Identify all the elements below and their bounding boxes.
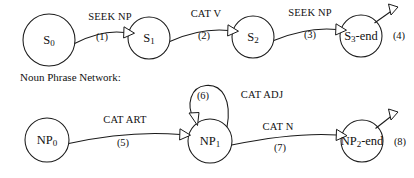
edge-4-number: (4) bbox=[393, 31, 405, 42]
edge-3-number: (3) bbox=[304, 30, 316, 41]
node-np1-label: NP1 bbox=[200, 135, 220, 150]
edge-7-number: (7) bbox=[274, 143, 286, 154]
node-np1-base: NP bbox=[200, 134, 216, 148]
edge-1-number: (1) bbox=[96, 32, 108, 43]
edge-4-arrowhead bbox=[389, 4, 399, 15]
node-np0-label: NP0 bbox=[37, 134, 57, 149]
node-s0-base: S bbox=[43, 33, 50, 47]
edge-5-label: CAT ART bbox=[103, 115, 146, 126]
node-np2-suffix: -end bbox=[361, 134, 383, 148]
node-np0-base: NP bbox=[37, 133, 53, 147]
edge-2-label: CAT V bbox=[191, 9, 222, 20]
node-s0-subscript: 0 bbox=[50, 38, 55, 48]
edge-8-path bbox=[376, 116, 392, 129]
node-np1-subscript: 1 bbox=[216, 139, 221, 149]
edge-2-number: (2) bbox=[198, 31, 210, 42]
node-s1-label: S1 bbox=[143, 32, 154, 47]
node-np2-base: NP bbox=[341, 134, 357, 148]
node-np0-subscript: 0 bbox=[53, 138, 58, 148]
node-s0-label: S0 bbox=[43, 34, 54, 49]
edge-6-arrowhead bbox=[189, 113, 199, 126]
node-s2-base: S bbox=[247, 30, 254, 44]
edge-1-label: SEEK NP bbox=[88, 12, 132, 23]
node-s1-base: S bbox=[143, 31, 150, 45]
node-s2-subscript: 2 bbox=[254, 35, 259, 45]
edge-4-path bbox=[375, 11, 392, 23]
edge-6-number: (6) bbox=[197, 91, 209, 102]
edge-5-number: (5) bbox=[117, 138, 129, 149]
edge-3-label: SEEK NP bbox=[288, 8, 332, 19]
node-np2-end-label: NP2-end bbox=[341, 135, 384, 150]
edge-7-label: CAT N bbox=[263, 122, 294, 133]
atn-diagram: S0 S1 S2 S3-end NP0 NP1 NP2-end SEEK NP … bbox=[0, 0, 414, 178]
noun-phrase-network-caption: Noun Phrase Network: bbox=[20, 72, 121, 83]
edge-6-label: CAT ADJ bbox=[241, 90, 283, 101]
node-s3-end-label: S3-end bbox=[344, 30, 378, 45]
node-s3-base: S bbox=[344, 29, 351, 43]
node-s1-subscript: 1 bbox=[150, 36, 155, 46]
edge-8-arrowhead bbox=[389, 109, 399, 120]
edge-8-number: (8) bbox=[394, 137, 406, 148]
node-s3-suffix: -end bbox=[356, 29, 378, 43]
node-s2-label: S2 bbox=[247, 31, 258, 46]
